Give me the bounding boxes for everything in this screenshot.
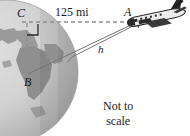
label-point-b: B (24, 76, 31, 88)
airplane-icon (124, 0, 189, 33)
label-point-a: A (124, 6, 131, 18)
figure-svg (0, 0, 190, 136)
label-distance: 125 mi (55, 6, 89, 18)
label-segment-h: h (98, 44, 104, 55)
not-to-scale-line2: scale (103, 114, 133, 129)
label-point-c: C (17, 7, 25, 19)
not-to-scale-line1: Not to (103, 99, 133, 114)
earth-globe (0, 0, 78, 136)
figure-container: C A B h 125 mi Not to scale (0, 0, 190, 136)
not-to-scale-note: Not to scale (103, 99, 133, 129)
